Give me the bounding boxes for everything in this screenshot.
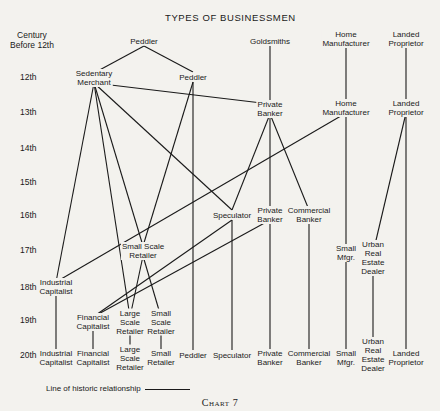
node-home-mfr-pre: HomeManufacturer [321, 30, 370, 48]
row-label: 12th [20, 72, 37, 82]
row-label: 16th [20, 210, 37, 220]
node-peddler-pre: Peddler [129, 37, 159, 46]
node-home-mfr-13: HomeManufacturer [321, 99, 370, 117]
node-large-retailer-20: LargeScaleRetailer [115, 345, 145, 372]
relationship-line [94, 83, 270, 104]
node-landed-13: LandedProprietor [387, 99, 424, 117]
node-landed-pre: LandedProprietor [387, 30, 424, 48]
node-commercial-banker-20: CommercialBanker [287, 349, 332, 367]
node-industrial-cap-18: IndustrialCapitalist [39, 278, 74, 296]
relationship-line [94, 83, 143, 246]
node-small-mfgr-20: SmallMfgr. [335, 349, 357, 367]
node-private-banker-16: PrivateBanker [256, 206, 283, 224]
row-label: 18th [20, 282, 37, 292]
node-speculator-20: Speculator [212, 351, 252, 360]
relationship-line [56, 113, 346, 282]
node-urban-re-20: UrbanRealEstateDealer [360, 337, 386, 373]
row-label: 20th [20, 350, 37, 360]
row-label: 17th [20, 245, 37, 255]
relationship-line [232, 114, 270, 210]
node-goldsmiths: Goldsmiths [249, 37, 291, 46]
legend-line-sample [145, 389, 190, 390]
node-urban-re-17: UrbanRealEstateDealer [360, 240, 386, 276]
row-label: 13th [20, 107, 37, 117]
node-small-retailer-20: SmallRetailer [146, 349, 176, 367]
node-small-mfgr-17: SmallMfgr. [335, 244, 357, 262]
node-financial-cap-20: FinancialCapitalist [76, 349, 111, 367]
relationship-line [373, 113, 406, 253]
node-landed-20: LandedProprietor [387, 349, 424, 367]
row-label: 15th [20, 177, 37, 187]
node-private-banker-20: PrivateBanker [256, 349, 283, 367]
node-large-retailer-19: LargeScaleRetailer [115, 309, 145, 336]
relationship-line [270, 114, 309, 210]
row-label: 14th [20, 143, 37, 153]
node-small-retailer-19: SmallScaleRetailer [146, 309, 176, 336]
legend-label: Line of historic relationship [46, 384, 141, 393]
row-label: CenturyBefore 12th [10, 30, 54, 50]
chart-caption: Chart 7 [0, 397, 440, 408]
relationship-line [94, 83, 130, 317]
node-commercial-banker-16: CommercialBanker [287, 206, 332, 224]
node-speculator-16: Speculator [212, 211, 252, 220]
relationship-line [56, 83, 94, 282]
relationship-line [93, 220, 232, 317]
node-sedentary-12: SedentaryMerchant [75, 69, 113, 87]
relationship-line [143, 82, 193, 246]
node-financial-cap-19: FinancialCapitalist [76, 313, 111, 331]
node-industrial-cap-20: IndustrialCapitalist [39, 349, 74, 367]
node-peddler-12: Peddler [178, 73, 208, 82]
node-small-scale-retailer-17: Small ScaleRetailer [121, 242, 165, 260]
relationship-line [93, 220, 270, 317]
node-private-banker-13: PrivateBanker [256, 100, 283, 118]
row-label: 19th [20, 315, 37, 325]
node-peddler-20: Peddler [178, 351, 208, 360]
relationship-line [144, 46, 193, 72]
chart-title: TYPES OF BUSINESSMEN [165, 12, 296, 23]
